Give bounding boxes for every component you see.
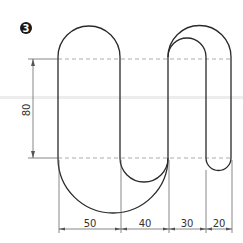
- arrow-left-icon: [59, 228, 65, 231]
- figure-number-badge: 3: [20, 22, 32, 34]
- outer-bottom-arc: [58, 158, 168, 213]
- arrow-down-icon: [31, 151, 35, 158]
- arrow-up-icon: [31, 59, 35, 66]
- right-end-arc: [206, 158, 231, 171]
- dimension-label-30: 30: [181, 218, 194, 229]
- left-slot-top: [58, 26, 120, 158]
- arrow-left-icon: [169, 228, 175, 231]
- dimension-label-20: 20: [213, 218, 226, 229]
- arrow-right-icon: [226, 228, 232, 231]
- slot-outline: [58, 26, 231, 214]
- arrow-right-icon: [163, 228, 169, 231]
- right-inner-loop: [168, 38, 206, 158]
- right-outer-loop: [168, 26, 231, 159]
- figure-number-text: 3: [23, 23, 30, 34]
- arrow-left-icon: [206, 228, 212, 231]
- dimension-label-40: 40: [139, 218, 152, 229]
- arrow-left-icon: [121, 228, 127, 231]
- technical-drawing: 3 80: [0, 0, 243, 243]
- middle-bottom-arc: [120, 158, 168, 182]
- dimension-label-80: 80: [21, 104, 32, 117]
- vertical-dimension: [28, 59, 58, 158]
- arrow-right-icon: [200, 228, 206, 231]
- dimension-label-50: 50: [84, 218, 97, 229]
- arrow-right-icon: [115, 228, 121, 231]
